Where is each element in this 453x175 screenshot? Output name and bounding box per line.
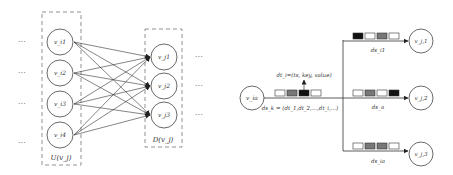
- upstream-node-3: v_i3: [47, 91, 73, 117]
- node-label: v_j,3: [415, 151, 428, 158]
- source-node: v_ia: [240, 86, 264, 110]
- branch-stream-label: ds_a: [372, 104, 384, 111]
- ellipsis: ···: [195, 53, 203, 61]
- upstream-node-4: v_i4: [47, 122, 73, 148]
- diagram-canvas: v_i1 v_i2 v_i3 v_i4 U(v_j) v_j1 v_j2 v_j…: [0, 0, 453, 175]
- tuple-label: dt_i=(ts, key, value): [276, 72, 331, 79]
- node-label: v_i3: [54, 100, 66, 108]
- ellipsis: ···: [18, 139, 26, 147]
- target-node-3: v_j,3: [409, 142, 433, 166]
- edges: [74, 42, 150, 135]
- target-node-1: v_j,1: [409, 29, 433, 53]
- ellipsis: ···: [18, 100, 26, 108]
- ellipsis: ···: [18, 69, 26, 77]
- node-label: v_j,1: [415, 38, 428, 45]
- node-label: v_i2: [54, 69, 66, 77]
- downstream-node-2: v_j2: [151, 73, 177, 99]
- branch-queue-2: [353, 90, 399, 96]
- node-label: v_j2: [158, 82, 170, 90]
- upstream-group-label: U(v_j): [51, 154, 72, 162]
- node-label: v_i4: [54, 131, 66, 139]
- ellipsis: ···: [195, 111, 203, 119]
- node-label: v_i1: [54, 38, 66, 46]
- node-label: v_j,2: [415, 95, 428, 102]
- node-label: v_ia: [246, 94, 258, 102]
- stream-label: ds_k = (dt_1,dt_2,...,dt_i,...): [262, 105, 339, 112]
- ellipsis: ···: [18, 38, 26, 46]
- node-label: v_j3: [158, 111, 170, 119]
- right-diagram: v_ia dt_i=(ts, key, value) ds_k = (dt_1,…: [240, 29, 433, 166]
- upstream-node-2: v_i2: [47, 60, 73, 86]
- branch-stream-label: ds_ia: [371, 158, 385, 165]
- branch-queue-3: [353, 143, 399, 149]
- branch-queue-1: [353, 33, 399, 39]
- downstream-node-1: v_j1: [151, 44, 177, 70]
- node-label: v_j1: [158, 53, 170, 61]
- source-queue: [275, 90, 321, 96]
- branch-stream-label: ds_i1: [371, 47, 385, 54]
- downstream-group-label: D(v_j): [152, 136, 174, 144]
- ellipsis: ···: [195, 82, 203, 90]
- downstream-node-3: v_j3: [151, 102, 177, 128]
- target-node-2: v_j,2: [409, 86, 433, 110]
- left-diagram: v_i1 v_i2 v_i3 v_i4 U(v_j) v_j1 v_j2 v_j…: [18, 12, 203, 165]
- upstream-node-1: v_i1: [47, 29, 73, 55]
